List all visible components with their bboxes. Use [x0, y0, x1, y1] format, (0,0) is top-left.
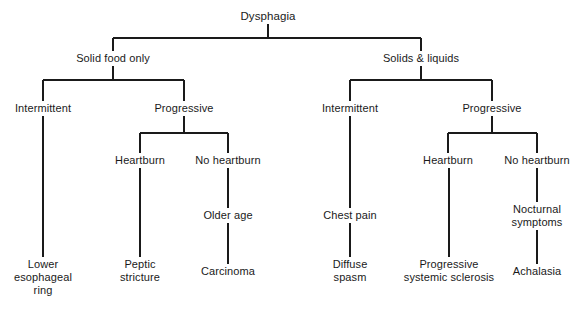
node-right-no-heartburn: No heartburn	[504, 154, 569, 167]
node-progressive-systemic-sclerosis: Progressive systemic sclerosis	[404, 258, 494, 284]
node-right-intermittent: Intermittent	[322, 102, 378, 115]
node-left-intermittent: Intermittent	[15, 102, 71, 115]
node-left-heartburn: Heartburn	[115, 154, 165, 167]
node-right-heartburn: Heartburn	[423, 154, 473, 167]
connector-lines	[0, 0, 585, 317]
node-lower-esophageal-ring: Lower esophageal ring	[14, 258, 72, 297]
node-root: Dysphagia	[240, 10, 295, 23]
node-carcinoma: Carcinoma	[201, 265, 255, 278]
node-chest-pain: Chest pain	[323, 209, 377, 222]
node-solid-food-only: Solid food only	[76, 52, 150, 65]
node-right-progressive: Progressive	[462, 102, 521, 115]
node-left-progressive: Progressive	[154, 102, 213, 115]
node-peptic-stricture: Peptic stricture	[120, 258, 160, 284]
dysphagia-decision-tree: Dysphagia Solid food only Solids & liqui…	[0, 0, 585, 317]
node-achalasia: Achalasia	[513, 265, 562, 278]
node-older-age: Older age	[203, 209, 252, 222]
node-left-no-heartburn: No heartburn	[195, 154, 260, 167]
node-diffuse-spasm: Diffuse spasm	[333, 258, 368, 284]
node-solids-and-liquids: Solids & liquids	[383, 52, 459, 65]
node-nocturnal-symptoms: Nocturnal symptoms	[512, 203, 563, 229]
